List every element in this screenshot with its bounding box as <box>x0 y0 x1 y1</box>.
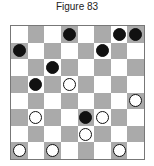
black-checker-piece <box>13 44 26 57</box>
board-square-r5c3 <box>61 109 78 126</box>
board-square-r5c7 <box>127 109 144 126</box>
black-checker-piece <box>29 78 42 91</box>
board-square-r4c1 <box>28 93 45 110</box>
white-checker-piece <box>79 128 92 141</box>
board-square-r1c7 <box>127 43 144 60</box>
board-square-r5c5 <box>94 109 111 126</box>
board-square-r1c3 <box>61 43 78 60</box>
board-square-r3c3 <box>61 76 78 93</box>
board-square-r0c7 <box>127 26 144 43</box>
board-square-r6c0 <box>11 126 28 143</box>
white-checker-piece <box>96 111 109 124</box>
board-square-r1c5 <box>94 43 111 60</box>
board-square-r3c4 <box>78 76 95 93</box>
checkerboard <box>10 25 145 160</box>
board-square-r1c4 <box>78 43 95 60</box>
board-square-r7c7 <box>127 142 144 159</box>
board-square-r5c4 <box>78 109 95 126</box>
white-checker-piece <box>113 144 126 157</box>
board-square-r2c1 <box>28 59 45 76</box>
black-checker-piece <box>113 28 126 41</box>
board-square-r5c6 <box>111 109 128 126</box>
board-square-r7c5 <box>94 142 111 159</box>
board-square-r4c5 <box>94 93 111 110</box>
black-checker-piece <box>129 28 142 41</box>
board-square-r4c4 <box>78 93 95 110</box>
board-square-r4c3 <box>61 93 78 110</box>
board-square-r7c4 <box>78 142 95 159</box>
board-square-r0c4 <box>78 26 95 43</box>
board-square-r3c7 <box>127 76 144 93</box>
black-checker-piece <box>46 61 59 74</box>
board-square-r5c0 <box>11 109 28 126</box>
white-checker-piece <box>29 111 42 124</box>
board-square-r7c2 <box>44 142 61 159</box>
figure-title: Figure 83 <box>0 1 154 12</box>
board-square-r2c7 <box>127 59 144 76</box>
black-checker-piece <box>63 28 76 41</box>
board-square-r3c6 <box>111 76 128 93</box>
board-square-r2c4 <box>78 59 95 76</box>
board-square-r1c2 <box>44 43 61 60</box>
board-square-r0c6 <box>111 26 128 43</box>
white-checker-piece <box>129 94 142 107</box>
board-square-r6c4 <box>78 126 95 143</box>
board-square-r7c6 <box>111 142 128 159</box>
board-square-r6c1 <box>28 126 45 143</box>
board-square-r4c7 <box>127 93 144 110</box>
board-square-r6c3 <box>61 126 78 143</box>
board-square-r0c2 <box>44 26 61 43</box>
board-square-r2c3 <box>61 59 78 76</box>
board-square-r0c1 <box>28 26 45 43</box>
board-square-r0c3 <box>61 26 78 43</box>
board-square-r1c1 <box>28 43 45 60</box>
board-square-r4c0 <box>11 93 28 110</box>
board-square-r5c2 <box>44 109 61 126</box>
board-square-r6c6 <box>111 126 128 143</box>
board-square-r6c7 <box>127 126 144 143</box>
board-square-r6c5 <box>94 126 111 143</box>
board-square-r5c1 <box>28 109 45 126</box>
board-square-r2c5 <box>94 59 111 76</box>
white-checker-piece <box>13 144 26 157</box>
board-square-r0c0 <box>11 26 28 43</box>
white-checker-piece <box>63 78 76 91</box>
board-square-r7c1 <box>28 142 45 159</box>
board-square-r1c6 <box>111 43 128 60</box>
board-square-r7c0 <box>11 142 28 159</box>
board-square-r2c2 <box>44 59 61 76</box>
board-square-r4c2 <box>44 93 61 110</box>
board-square-r6c2 <box>44 126 61 143</box>
board-square-r3c0 <box>11 76 28 93</box>
board-square-r2c0 <box>11 59 28 76</box>
board-square-r0c5 <box>94 26 111 43</box>
board-square-r7c3 <box>61 142 78 159</box>
white-checker-piece <box>46 144 59 157</box>
board-square-r3c2 <box>44 76 61 93</box>
black-checker-piece <box>79 111 92 124</box>
board-square-r1c0 <box>11 43 28 60</box>
board-square-r2c6 <box>111 59 128 76</box>
black-checker-piece <box>96 44 109 57</box>
board-square-r3c1 <box>28 76 45 93</box>
board-square-r4c6 <box>111 93 128 110</box>
board-square-r3c5 <box>94 76 111 93</box>
